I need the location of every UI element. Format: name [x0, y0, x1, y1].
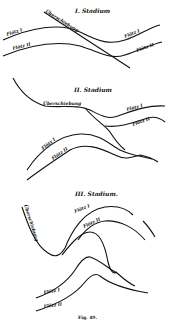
seam-1-lower-label: Flötz I [40, 136, 57, 151]
seam-1-lower-line [27, 134, 152, 170]
seam-2-lower-line [27, 146, 158, 180]
fault-label: Überschiebung [23, 203, 41, 241]
fault-label: Überschiebung [43, 100, 81, 106]
stage-3-title: III. Stadium. [74, 190, 118, 197]
stage-1-title: I. Stadium [74, 7, 110, 14]
seam-2-lower-label: Flötz II [42, 301, 63, 309]
stage-1: I. Stadium Überschiebung Flötz I Flötz I… [3, 7, 162, 68]
seam-2-lower-label: Flötz II [50, 146, 69, 162]
seam-2-right-label: Flötz II [135, 42, 156, 54]
seam-fragment-line [143, 221, 155, 237]
stage-2-title: II. Stadium [73, 86, 112, 93]
seam-1-upper-label: Flötz I [73, 203, 92, 214]
stage-3: III. Stadium. Überschiebung Flötz I Flöt… [22, 190, 155, 311]
seam-2-upper-label: Flötz II [131, 116, 152, 128]
fault-stages-diagram: I. Stadium Überschiebung Flötz I Flötz I… [0, 0, 175, 326]
fault-line [85, 108, 125, 150]
seam-1-upper-line [22, 207, 133, 256]
figure-caption: Fig. 49. [78, 315, 97, 320]
seam-1-lower-label: Flötz I [42, 287, 61, 295]
fault-line [62, 232, 117, 273]
stage-2: II. Stadium Überschiebung Flötz I Flötz … [13, 78, 165, 180]
seam-1-upper-line [13, 78, 165, 117]
